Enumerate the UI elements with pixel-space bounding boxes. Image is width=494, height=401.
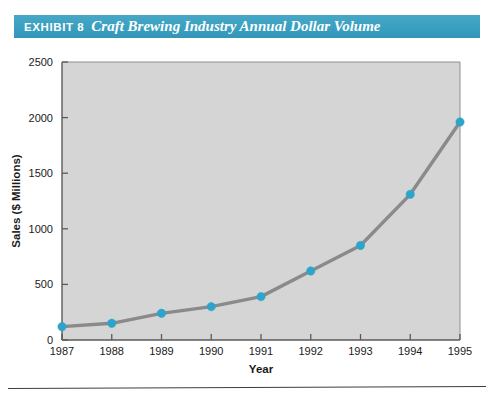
x-tick-label: 1995 [448,345,472,357]
x-tick-label: 1988 [100,345,124,357]
y-tick-label: 1500 [29,167,53,179]
data-point-marker [456,118,464,126]
data-point-marker [356,241,364,249]
data-point-marker [58,322,66,330]
x-tick-label: 1992 [299,345,323,357]
data-point-marker [257,292,265,300]
y-tick-labels: 05001000150020002500 [29,56,53,346]
y-tick-label: 2500 [29,56,53,68]
data-point-marker [157,309,165,317]
data-point-marker [406,190,414,198]
exhibit-number-label: EXHIBIT 8 [24,21,84,33]
data-point-marker [207,302,215,310]
footer-divider [8,386,486,389]
data-point-marker [307,267,315,275]
data-point-marker [108,319,116,327]
y-tick-label: 500 [35,278,53,290]
line-chart: 05001000150020002500 1987198819891990199… [0,40,494,380]
y-tick-label: 2000 [29,112,53,124]
exhibit-header-banner: EXHIBIT 8 Craft Brewing Industry Annual … [14,15,480,38]
x-tick-label: 1991 [249,345,273,357]
x-tick-label: 1987 [50,345,74,357]
x-tick-label: 1993 [348,345,372,357]
x-axis-title: Year [249,363,274,375]
chart-figure: 05001000150020002500 1987198819891990199… [0,40,494,380]
x-tick-labels: 198719881989199019911992199319941995 [50,345,472,357]
x-tick-label: 1994 [398,345,422,357]
y-axis-title: Sales ($ Millions) [10,154,22,247]
exhibit-title: Craft Brewing Industry Annual Dollar Vol… [91,18,380,35]
x-tick-label: 1990 [199,345,223,357]
y-tick-label: 1000 [29,223,53,235]
x-tick-label: 1989 [149,345,173,357]
